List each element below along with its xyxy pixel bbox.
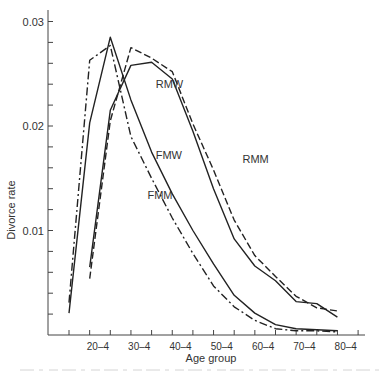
x-axis-label: Age group bbox=[186, 352, 237, 364]
series-label-fmm: FMM bbox=[147, 189, 172, 201]
axes: 0.010.020.0320–430–440–450–460–470–480–4 bbox=[23, 10, 365, 352]
series-line-fmm bbox=[69, 46, 337, 332]
y-tick-label: 0.03 bbox=[23, 16, 44, 28]
series-labels: RMWFMWFMMRMM bbox=[147, 78, 268, 201]
series-line-rmw bbox=[90, 62, 338, 317]
series-label-rmm: RMM bbox=[242, 153, 268, 165]
y-axis-label: Divorce rate bbox=[5, 180, 17, 239]
x-tick-label: 80–4 bbox=[335, 341, 358, 352]
x-tick-label: 20–4 bbox=[87, 341, 110, 352]
x-tick-label: 40–4 bbox=[169, 341, 192, 352]
series-lines bbox=[69, 37, 337, 332]
divorce-rate-chart: 0.010.020.0320–430–440–450–460–470–480–4… bbox=[0, 0, 379, 371]
series-label-fmw: FMW bbox=[156, 149, 183, 161]
series-line-fmw bbox=[69, 37, 337, 331]
x-tick-label: 50–4 bbox=[211, 341, 234, 352]
y-tick-label: 0.02 bbox=[23, 120, 44, 132]
x-tick-label: 70–4 bbox=[293, 341, 316, 352]
series-label-rmw: RMW bbox=[156, 78, 184, 90]
x-tick-label: 30–4 bbox=[128, 341, 151, 352]
y-tick-label: 0.01 bbox=[23, 225, 44, 237]
x-tick-label: 60–4 bbox=[252, 341, 275, 352]
